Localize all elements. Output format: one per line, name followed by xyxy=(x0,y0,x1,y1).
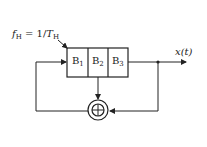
register-b2: B2 xyxy=(92,55,104,68)
register-b1: B1 xyxy=(72,55,84,68)
register-b3: B3 xyxy=(112,55,124,68)
clock-label: fH = 1/TH xyxy=(12,28,59,41)
feedback-left xyxy=(36,62,88,111)
shift-register-diagram: fH = 1/TH B1 B2 B3 x(t) xyxy=(0,0,207,147)
clock-arrow xyxy=(58,40,67,48)
feedback-right xyxy=(110,62,158,111)
output-label: x(t) xyxy=(175,46,192,57)
diagram-lines xyxy=(0,0,207,147)
